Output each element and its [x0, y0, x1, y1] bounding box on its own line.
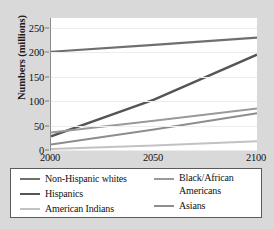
y-tick-mark	[45, 27, 49, 28]
population-projection-figure: Numbers (millions) 050100150200250 20002…	[0, 0, 274, 229]
series-line	[51, 141, 257, 149]
gridline	[51, 77, 257, 78]
legend-column-right: Black/African AmericansAsians	[154, 172, 260, 214]
legend-item[interactable]: Hispanics	[20, 187, 160, 201]
y-tick-label: 50	[16, 120, 44, 131]
y-tick-mark	[45, 101, 49, 102]
legend-item[interactable]: American Indians	[20, 202, 160, 216]
legend-item[interactable]: Asians	[154, 199, 260, 213]
legend-color-swatch	[20, 208, 40, 210]
legend-color-swatch	[154, 205, 174, 207]
plot-area	[50, 18, 257, 151]
legend-label: American Indians	[45, 202, 114, 215]
series-line	[51, 55, 257, 137]
legend-label: Hispanics	[45, 187, 83, 200]
legend-item[interactable]: Non-Hispanic whites	[20, 172, 160, 186]
x-axis-tick-labels: 200020502100	[50, 152, 264, 166]
legend-column-left: Non-Hispanic whitesHispanicsAmerican Ind…	[20, 172, 160, 217]
chart-panel: Numbers (millions) 050100150200250 20002…	[0, 0, 274, 162]
legend-color-swatch	[20, 193, 40, 195]
legend-label: Non-Hispanic whites	[45, 172, 127, 185]
y-tick-mark	[45, 125, 49, 126]
gridline	[51, 28, 257, 29]
legend-label: Black/African Americans	[179, 172, 255, 197]
legend-color-swatch	[20, 178, 40, 180]
x-tick-label: 2100	[246, 152, 266, 163]
x-tick-label: 2000	[40, 152, 60, 163]
y-tick-mark	[45, 76, 49, 77]
legend-label: Asians	[179, 199, 205, 212]
y-tick-label: 200	[16, 47, 44, 58]
gridline	[51, 150, 257, 151]
gridline	[51, 52, 257, 53]
y-tick-mark	[45, 52, 49, 53]
y-tick-label: 150	[16, 71, 44, 82]
y-tick-label: 250	[16, 22, 44, 33]
legend-color-swatch	[154, 178, 174, 180]
y-tick-mark	[45, 150, 49, 151]
gridline	[51, 101, 257, 102]
series-lines	[51, 18, 257, 150]
legend-item[interactable]: Black/African Americans	[154, 172, 260, 198]
series-line	[51, 38, 257, 52]
y-tick-label: 100	[16, 96, 44, 107]
legend: Non-Hispanic whitesHispanicsAmerican Ind…	[10, 168, 262, 218]
x-tick-label: 2050	[143, 152, 163, 163]
y-axis-tick-labels: 050100150200250	[16, 14, 44, 150]
plot-inner	[51, 18, 257, 150]
gridline	[51, 126, 257, 127]
